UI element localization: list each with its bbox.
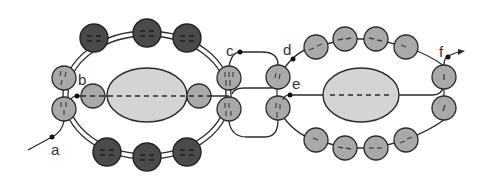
- label-a: a: [51, 141, 60, 158]
- dark-bead: [173, 138, 201, 166]
- bridge: [229, 50, 290, 138]
- label-d: d: [283, 41, 291, 58]
- dark-bead: [173, 24, 201, 52]
- exit-arrow-icon: [458, 49, 465, 55]
- dark-bead: [133, 143, 161, 171]
- label-b: b: [78, 71, 86, 88]
- right-loop: [283, 27, 465, 160]
- label-f: f: [439, 43, 444, 60]
- left-loop: [28, 19, 241, 171]
- label-c: c: [226, 42, 234, 59]
- dark-bead: [133, 19, 161, 47]
- label-e: e: [292, 75, 300, 92]
- dark-bead: [93, 138, 121, 166]
- left-core: [107, 68, 187, 122]
- bead-loop-diagram: a b c d e f: [0, 0, 486, 187]
- dark-bead: [80, 24, 108, 52]
- diagram-canvas: a b c d e f: [0, 0, 486, 187]
